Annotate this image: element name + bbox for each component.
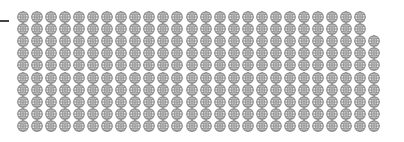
globe-icon <box>214 20 226 32</box>
globe-icon <box>87 93 99 105</box>
globe-icon <box>256 44 268 56</box>
globe-icon <box>326 44 338 56</box>
globe-icon <box>171 69 183 81</box>
globe-icon <box>326 117 338 129</box>
globe-icon <box>143 44 155 56</box>
globe-icon <box>326 69 338 81</box>
globe-icon <box>45 105 57 117</box>
globe-icon <box>312 8 324 20</box>
globe-icon <box>284 81 296 93</box>
globe-icon <box>242 44 254 56</box>
globe-icon <box>270 117 282 129</box>
globe-icon <box>171 8 183 20</box>
globe-icon <box>87 20 99 32</box>
globe-icon <box>87 69 99 81</box>
globe-icon <box>143 105 155 117</box>
globe-icon <box>214 32 226 44</box>
globe-icon <box>101 32 113 44</box>
globe-icon <box>270 8 282 20</box>
globe-icon <box>284 32 296 44</box>
globe-icon <box>312 32 324 44</box>
globe-icon <box>17 93 29 105</box>
globe-icon <box>298 117 310 129</box>
globe-icon <box>171 93 183 105</box>
globe-icon <box>242 8 254 20</box>
globe-icon <box>143 32 155 44</box>
globe-icon <box>73 8 85 20</box>
globe-icon <box>270 32 282 44</box>
globe-icon <box>354 69 366 81</box>
globe-icon <box>200 56 212 68</box>
globe-icon <box>87 44 99 56</box>
globe-icon <box>228 93 240 105</box>
globe-icon <box>368 81 380 93</box>
globe-icon <box>270 81 282 93</box>
globe-icon <box>284 20 296 32</box>
globe-icon <box>59 105 71 117</box>
globe-icon <box>326 32 338 44</box>
globe-icon <box>129 56 141 68</box>
globe-icon <box>73 44 85 56</box>
globe-icon <box>326 8 338 20</box>
globe-icon <box>157 81 169 93</box>
globe-icon <box>143 81 155 93</box>
globe-icon <box>31 20 43 32</box>
globe-icon <box>73 93 85 105</box>
globe-icon <box>312 117 324 129</box>
globe-icon <box>115 117 127 129</box>
globe-icon <box>312 81 324 93</box>
globe-icon <box>298 56 310 68</box>
globe-icon <box>59 20 71 32</box>
globe-icon <box>129 44 141 56</box>
globe-icon <box>284 105 296 117</box>
globe-icon <box>186 69 198 81</box>
globe-icon <box>368 56 380 68</box>
globe-icon <box>200 81 212 93</box>
globe-icon <box>157 44 169 56</box>
globe-icon <box>368 69 380 81</box>
globe-icon <box>214 93 226 105</box>
globe-icon <box>284 117 296 129</box>
globe-icon <box>200 44 212 56</box>
globe-icon <box>115 32 127 44</box>
globe-icon <box>73 20 85 32</box>
globe-icon <box>242 20 254 32</box>
globe-icon <box>31 117 43 129</box>
globe-icon <box>242 117 254 129</box>
globe-icon <box>354 20 366 32</box>
globe-icon <box>326 20 338 32</box>
globe-icon <box>256 93 268 105</box>
globe-icon <box>326 93 338 105</box>
globe-icon <box>45 93 57 105</box>
globe-icon <box>354 93 366 105</box>
globe-icon <box>143 69 155 81</box>
globe-icon <box>31 8 43 20</box>
globe-icon <box>312 56 324 68</box>
globe-icon <box>228 56 240 68</box>
globe-icon <box>59 69 71 81</box>
globe-icon <box>214 69 226 81</box>
globe-icon <box>200 8 212 20</box>
globe-icon <box>45 8 57 20</box>
globe-icon <box>354 44 366 56</box>
globe-icon <box>270 69 282 81</box>
globe-icon <box>87 117 99 129</box>
globe-icon <box>256 20 268 32</box>
globe-icon <box>368 32 380 44</box>
globe-icon <box>129 81 141 93</box>
globe-icon <box>228 32 240 44</box>
globe-icon <box>129 8 141 20</box>
globe-icon <box>354 56 366 68</box>
globe-icon <box>354 117 366 129</box>
globe-icon <box>17 56 29 68</box>
globe-icon <box>157 117 169 129</box>
globe-icon <box>340 93 352 105</box>
globe-icon <box>101 93 113 105</box>
globe-icon <box>228 44 240 56</box>
globe-icon <box>171 32 183 44</box>
globe-icon <box>17 8 29 20</box>
globe-icon <box>101 56 113 68</box>
globe-icon <box>129 69 141 81</box>
globe-icon <box>298 44 310 56</box>
globe-icon <box>115 81 127 93</box>
